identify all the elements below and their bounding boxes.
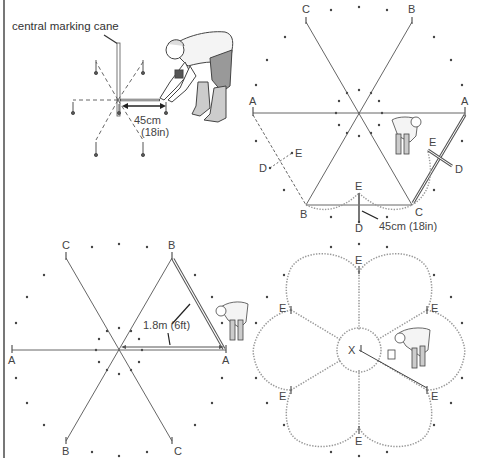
label-e-bottom: E [355,435,362,447]
label-d-bottom: D [355,222,363,234]
label-c-top: C [302,3,310,15]
label-a-right: A [461,95,469,107]
panel-step2: C B A A B C E D E D E D 45cm (18in) [249,3,469,234]
gardener-figure-icon [160,32,233,122]
label-b-top: B [168,239,175,251]
label-e-upper-left: E [279,302,286,314]
panel-step1: 45cm (18in) [71,32,232,157]
gardener-figure-small-icon [388,328,430,368]
label-e-lower-left: E [279,390,286,402]
gardener-figure-small-icon [216,302,248,340]
label-b-bottom: B [300,208,307,220]
measure-1-8m-6ft: 1.8m (6ft) [143,319,190,331]
panel-step3: C B A A B C 1.8m (6ft) [8,239,248,457]
label-e-lower-right: E [431,390,438,402]
panel-step4: E E E E E E X [253,243,464,457]
label-b-top: B [408,3,415,15]
measure-18in: (18in) [141,126,169,138]
label-c-bottom: C [174,445,182,457]
label-a-left: A [249,95,257,107]
gardener-figure-small-icon [392,117,421,154]
label-e-upper-right: E [431,302,438,314]
label-a-left: A [8,354,16,366]
label-e-bottom: E [355,180,362,192]
label-e-right: E [429,136,436,148]
label-x-center: X [348,344,356,356]
measure-45cm-18in: 45cm (18in) [379,220,437,232]
planting-layout-diagram: 45cm (18in) [0,0,480,476]
label-e-top: E [355,254,362,266]
label-c-top: C [62,239,70,251]
label-a-right: A [222,354,230,366]
label-b-bottom: B [62,445,69,457]
label-d-right: D [455,163,463,175]
measure-45cm: 45cm [134,114,161,126]
label-c-bottom: C [415,206,423,218]
label-d-left: D [259,162,267,174]
label-e-left: E [295,147,302,159]
